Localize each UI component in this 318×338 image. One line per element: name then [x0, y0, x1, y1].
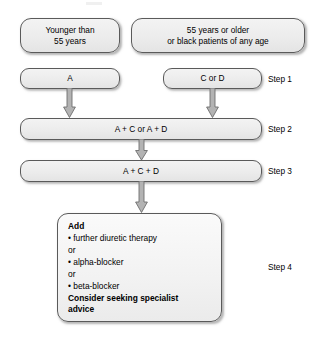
- step2-box: A + C or A + D: [20, 118, 262, 140]
- arrow-step3-to-step4: [135, 181, 148, 214]
- step4-or-1: or: [68, 245, 212, 257]
- branch-right-line2: or black patients of any age: [167, 36, 268, 47]
- top-artifact: [86, 2, 102, 5]
- step-label-3: Step 3: [268, 166, 292, 176]
- arrow-a-to-step2: [63, 88, 76, 119]
- branch-right-line1: 55 years or older: [167, 25, 268, 36]
- step-label-2: Step 2: [268, 124, 292, 134]
- arrow-step2-to-step3: [135, 139, 148, 161]
- step4-panel: Add • further diuretic therapy or • alph…: [57, 213, 222, 322]
- step1-box-right-c-or-d: C or D: [163, 68, 262, 89]
- step1-left-label: A: [67, 73, 73, 84]
- step4-heading: Add: [68, 221, 212, 233]
- step-label-4: Step 4: [268, 262, 292, 272]
- step-label-1: Step 1: [268, 74, 292, 84]
- branch-left-line2: 55 years: [45, 36, 94, 47]
- step1-box-left-a: A: [20, 68, 120, 89]
- branch-box-55-or-older-or-black: 55 years or older or black patients of a…: [131, 18, 305, 53]
- branch-box-younger-than-55: Younger than 55 years: [20, 18, 120, 53]
- step2-label: A + C or A + D: [115, 124, 168, 135]
- flowchart-canvas: Younger than 55 years 55 years or older …: [0, 0, 318, 338]
- branch-left-line1: Younger than: [45, 25, 94, 36]
- step4-item-alpha-blocker: • alpha-blocker: [68, 257, 212, 269]
- step4-item-beta-blocker: • beta-blocker: [68, 281, 212, 293]
- step4-footer-line2: advice: [68, 304, 212, 316]
- step1-right-label: C or D: [201, 73, 225, 84]
- step4-item-diuretic: • further diuretic therapy: [68, 233, 212, 245]
- arrow-c-or-d-to-step2: [206, 88, 219, 119]
- step4-footer-line1: Consider seeking specialist: [68, 293, 212, 305]
- step4-or-2: or: [68, 269, 212, 281]
- step3-box: A + C + D: [20, 160, 262, 182]
- step3-label: A + C + D: [123, 166, 159, 177]
